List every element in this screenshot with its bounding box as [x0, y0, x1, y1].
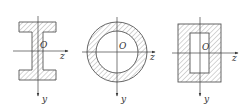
rect-y-label: y: [203, 94, 210, 104]
cross-sections-figure: O z y O z y O z y: [0, 0, 250, 108]
i-beam-y-label: y: [41, 94, 48, 104]
circle-y-label: y: [120, 94, 127, 104]
rect-origin-label: O: [202, 42, 210, 52]
i-beam-z-label: z: [59, 51, 65, 61]
i-beam-section: O z y: [13, 16, 68, 104]
i-beam-origin-label: O: [40, 40, 48, 50]
circle-z-label: z: [149, 52, 155, 62]
hollow-rectangle-section: O z y: [172, 17, 238, 104]
hollow-circle-section: O z y: [82, 17, 155, 104]
circle-origin-label: O: [119, 41, 127, 51]
rect-z-label: z: [231, 53, 237, 63]
